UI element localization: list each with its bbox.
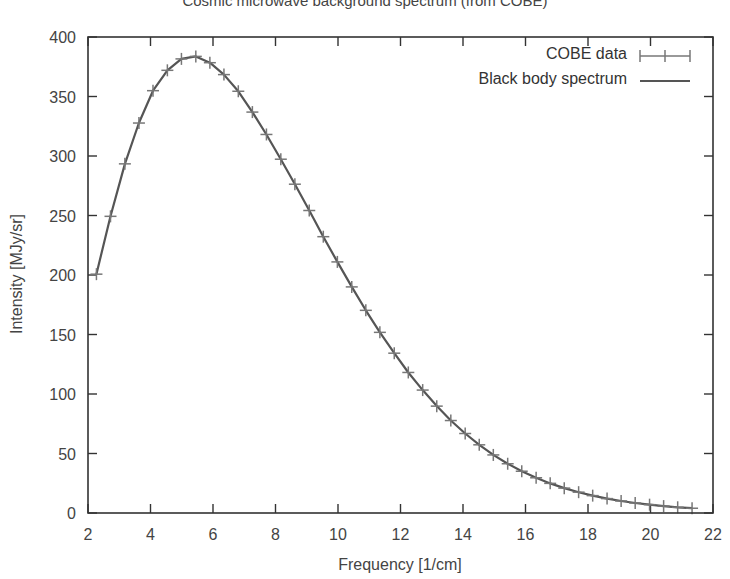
cobe-data-points: [90, 50, 698, 514]
x-tick-label: 22: [704, 526, 722, 543]
axis-ticks: 2468101214161820220501001502002503003504…: [49, 29, 722, 543]
x-tick-label: 8: [271, 526, 280, 543]
legend-label-black-body: Black body spectrum: [478, 70, 627, 87]
x-tick-label: 10: [329, 526, 347, 543]
y-tick-label: 250: [49, 208, 76, 225]
y-tick-label: 350: [49, 89, 76, 106]
x-tick-label: 4: [146, 526, 155, 543]
x-tick-label: 14: [454, 526, 472, 543]
plot-frame: [88, 37, 713, 513]
y-tick-label: 100: [49, 386, 76, 403]
y-tick-label: 200: [49, 267, 76, 284]
legend-glyphs: [640, 50, 690, 81]
black-body-curve: [96, 56, 692, 508]
x-tick-label: 16: [517, 526, 535, 543]
x-tick-label: 18: [579, 526, 597, 543]
x-axis-label: Frequency [1/cm]: [0, 556, 730, 574]
x-tick-label: 20: [642, 526, 660, 543]
legend-label-cobe-data: COBE data: [546, 45, 627, 62]
x-tick-label: 2: [84, 526, 93, 543]
y-tick-label: 0: [67, 505, 76, 522]
y-tick-label: 400: [49, 29, 76, 46]
y-tick-label: 50: [58, 446, 76, 463]
legend-item-cobe-data: COBE data: [546, 45, 627, 63]
y-tick-label: 300: [49, 148, 76, 165]
x-tick-label: 6: [209, 526, 218, 543]
y-tick-label: 150: [49, 327, 76, 344]
x-tick-label: 12: [392, 526, 410, 543]
y-axis-label: Intensity [MJy/sr]: [8, 169, 26, 379]
legend-item-black-body: Black body spectrum: [478, 70, 627, 88]
